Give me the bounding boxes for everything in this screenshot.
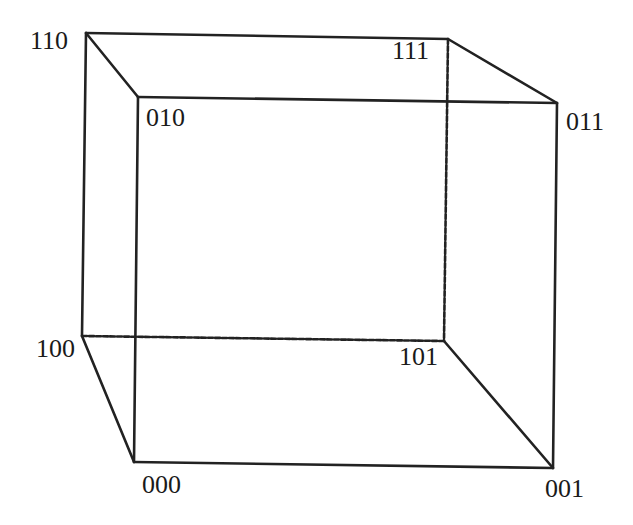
vertex-label-110: 110 [30, 28, 68, 54]
edge-000-001 [134, 462, 553, 468]
vertex-label-010: 010 [146, 105, 185, 131]
edge-100-000 [82, 336, 134, 462]
edge-010-000 [134, 97, 138, 462]
vertex-label-011: 011 [566, 109, 604, 135]
cube-diagram [0, 0, 633, 525]
edge-111-101 [444, 39, 448, 341]
edge-101-001 [444, 341, 553, 468]
edge-010-011 [138, 97, 557, 103]
edge-111-011 [448, 39, 557, 103]
vertex-label-111: 111 [392, 38, 429, 64]
vertex-label-101: 101 [399, 344, 438, 370]
edge-110-100 [82, 33, 86, 336]
edge-110-010 [86, 33, 138, 97]
vertex-label-001: 001 [545, 476, 584, 502]
vertex-label-100: 100 [36, 336, 75, 362]
vertex-label-000: 000 [142, 472, 181, 498]
edge-011-001 [553, 103, 557, 468]
